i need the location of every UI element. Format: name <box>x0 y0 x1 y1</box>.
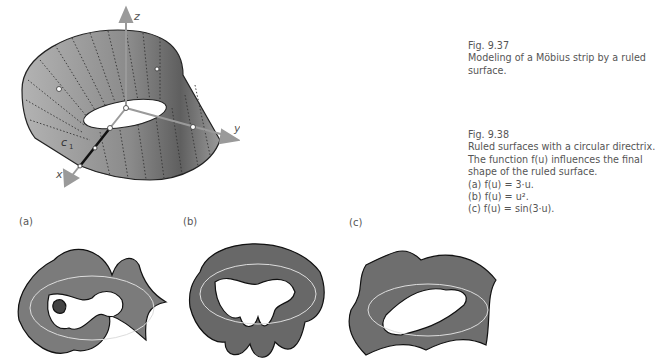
caption-line: Modeling of a Möbius strip by a ruled <box>468 52 646 64</box>
caption-line: shape of the ruled surface. <box>468 166 655 178</box>
caption-line: surface. <box>468 65 646 77</box>
panel-label-b: (b) <box>183 216 197 227</box>
panel-label-a: (a) <box>19 216 33 227</box>
curve-label: c <box>61 136 67 149</box>
caption-line: Ruled surfaces with a circular directrix… <box>468 141 655 153</box>
fig-number: Fig. 9.37 <box>468 40 646 52</box>
fig-number: Fig. 9.38 <box>468 129 655 141</box>
fig-9-38-caption: Fig. 9.38 Ruled surfaces with a circular… <box>468 129 655 216</box>
x-axis-label: x <box>55 168 63 181</box>
panel-label-c: (c) <box>349 217 362 228</box>
ruled-surface-b <box>180 232 340 362</box>
y-axis-label: y <box>233 122 240 135</box>
fig-9-37-caption: Fig. 9.37 Modeling of a Möbius strip by … <box>468 40 646 77</box>
item-c: (c) f(u) = sin(3·u). <box>468 203 655 215</box>
curve-subscript: 1 <box>69 143 73 151</box>
item-a: (a) f(u) = 3·u. <box>468 179 655 191</box>
mobius-strip-figure: z y x c 1 <box>0 0 240 200</box>
ruled-surface-c <box>346 240 516 362</box>
caption-line: The function f(u) influences the final <box>468 154 655 166</box>
item-b: (b) f(u) = u². <box>468 191 655 203</box>
z-axis-label: z <box>133 10 140 23</box>
ruled-surface-a <box>14 240 174 362</box>
